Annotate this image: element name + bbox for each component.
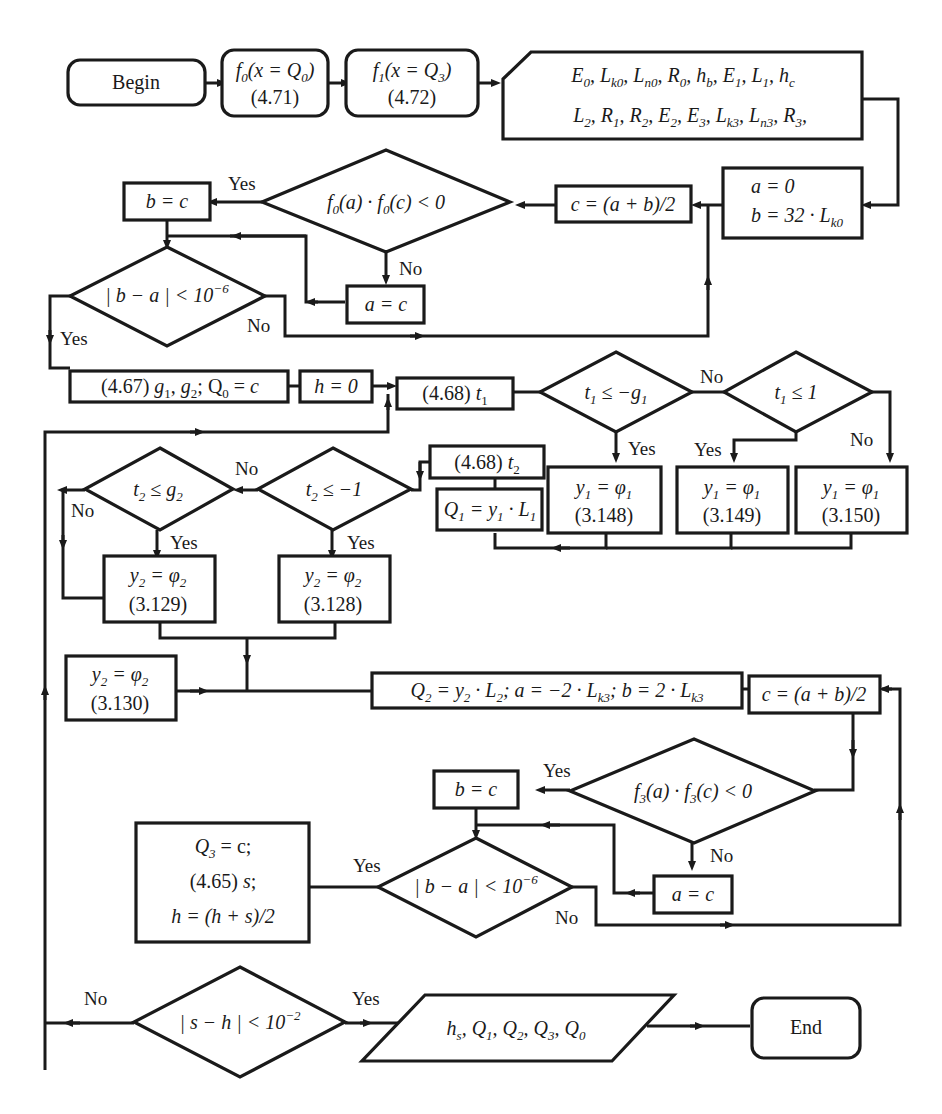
flowchart-canvas: Begin f0(x = Q0) (4.71) f1(x = Q3) (4.72… xyxy=(0,0,942,1114)
svg-text:Yes: Yes xyxy=(352,988,380,1009)
b-equals-c-process-2: b = c xyxy=(434,771,518,808)
svg-text:Yes: Yes xyxy=(347,532,375,553)
svg-text:Yes: Yes xyxy=(543,760,571,781)
decision-t2-le-neg1: t2 ≤ −1 No Yes xyxy=(235,448,411,553)
y2-process-3129: y2 = φ2 (3.129) xyxy=(104,556,215,622)
midpoint-process-1: c = (a + b)/2 xyxy=(556,186,691,222)
svg-text:No: No xyxy=(235,458,258,479)
y1-process-3149: y1 = φ1 (3.149) xyxy=(677,467,788,533)
decision-f0-sign: f0(a) · f0(c) < 0 Yes No xyxy=(228,150,510,279)
svg-text:c = (a + b)/2: c = (a + b)/2 xyxy=(762,683,867,706)
a-equals-c-process-2: a = c xyxy=(654,876,732,913)
svg-text:Yes: Yes xyxy=(628,438,656,459)
svg-text:| s − h | < 10−2: | s − h | < 10−2 xyxy=(179,1008,301,1034)
svg-text:(4.72): (4.72) xyxy=(388,86,436,109)
svg-text:(4.65) s;: (4.65) s; xyxy=(190,870,257,893)
svg-text:No: No xyxy=(71,500,94,521)
svg-text:No: No xyxy=(84,988,107,1009)
a-equals-c-process-1: a = c xyxy=(347,286,424,323)
b-equals-c-process-1: b = c xyxy=(124,183,210,220)
decision-f3-sign: f3(a) · f3(c) < 0 Yes No xyxy=(543,739,815,866)
g-calc-process: (4.67) g1, g2; Q0 = c xyxy=(70,371,288,402)
svg-text:a = 0: a = 0 xyxy=(751,175,795,197)
svg-text:(3.130): (3.130) xyxy=(91,692,149,715)
svg-text:No: No xyxy=(247,315,270,336)
svg-text:Yes: Yes xyxy=(353,855,381,876)
decision-t2-le-g2: t2 ≤ g2 No Yes xyxy=(71,448,233,553)
decision-convergence-2: | b − a | < 10−6 Yes No xyxy=(353,838,578,937)
svg-text:No: No xyxy=(399,258,422,279)
svg-text:h = 0: h = 0 xyxy=(314,375,358,397)
svg-text:(4.71): (4.71) xyxy=(251,86,299,109)
end-terminal: End xyxy=(752,998,860,1058)
midpoint-process-2: c = (a + b)/2 xyxy=(749,676,880,713)
svg-text:No: No xyxy=(850,429,873,450)
input-parameters-card: E0, Lk0, Ln0, R0, hb, E1, L1, hc L2, R1,… xyxy=(503,52,862,139)
svg-text:b = c: b = c xyxy=(455,778,497,800)
svg-text:| b − a | < 10−6: | b − a | < 10−6 xyxy=(414,872,538,898)
svg-text:(3.129): (3.129) xyxy=(129,593,187,616)
svg-text:Yes: Yes xyxy=(60,328,88,349)
decision-convergence-1: | b − a | < 10−6 No Yes xyxy=(60,247,270,349)
svg-text:Yes: Yes xyxy=(694,439,722,460)
svg-text:h = (h + s)/2: h = (h + s)/2 xyxy=(171,905,275,928)
svg-text:c = (a + b)/2: c = (a + b)/2 xyxy=(571,193,676,216)
q3-s-h-update-process: Q3 = c; (4.65) s; h = (h + s)/2 xyxy=(136,823,309,942)
svg-text:(3.149): (3.149) xyxy=(703,504,761,527)
y2-process-3130: y2 = φ2 (3.130) xyxy=(66,656,176,720)
q1-calc-process: Q1 = y1 · L1 xyxy=(437,489,542,530)
y1-process-3148: y1 = φ1 (3.148) xyxy=(548,467,661,533)
y1-process-3150: y1 = φ1 (3.150) xyxy=(796,467,907,533)
f0-process: f0(x = Q0) (4.71) xyxy=(222,50,328,116)
begin-terminal: Begin xyxy=(68,60,205,105)
svg-text:b = c: b = c xyxy=(146,190,188,212)
y2-process-3128: y2 = φ2 (3.128) xyxy=(279,556,390,622)
svg-text:No: No xyxy=(555,907,578,928)
svg-text:End: End xyxy=(790,1016,822,1038)
svg-text:Yes: Yes xyxy=(228,173,256,194)
svg-text:Yes: Yes xyxy=(170,532,198,553)
f1-process: f1(x = Q3) (4.72) xyxy=(346,50,478,116)
svg-text:(3.150): (3.150) xyxy=(822,504,880,527)
svg-text:No: No xyxy=(710,845,733,866)
init-a-b-process: a = 0 b = 32 · Lk0 xyxy=(723,168,862,238)
t2-calc-process: (4.68) t2 xyxy=(430,446,544,478)
h-init-process: h = 0 xyxy=(300,371,372,402)
svg-text:a = c: a = c xyxy=(365,293,407,315)
svg-text:| b − a | < 10−6: | b − a | < 10−6 xyxy=(105,281,229,307)
t1-calc-process: (4.68) t1 xyxy=(397,378,513,409)
svg-text:No: No xyxy=(700,366,723,387)
svg-text:(3.128): (3.128) xyxy=(304,593,362,616)
svg-text:a = c: a = c xyxy=(672,883,714,905)
q2-calc-process: Q2 = y2 · L2; a = −2 · Lk3; b = 2 · Lk3 xyxy=(372,673,742,708)
output-parallelogram: hs, Q1, Q2, Q3, Q0 xyxy=(362,995,674,1061)
svg-text:(3.148): (3.148) xyxy=(575,504,633,527)
svg-text:Begin: Begin xyxy=(112,71,160,94)
